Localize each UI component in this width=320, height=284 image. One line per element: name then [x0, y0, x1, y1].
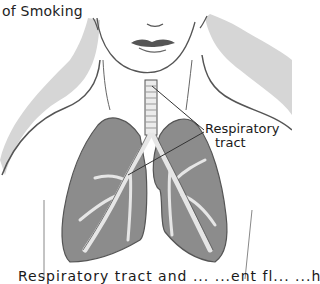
label-line-1: Respiratory [205, 121, 279, 136]
mouth [131, 39, 175, 47]
neck-left [103, 60, 110, 110]
right-shoulder-shade [205, 14, 292, 115]
lower-lip [139, 48, 166, 52]
neck-right [186, 60, 192, 110]
caption-cutoff: Respiratory tract and ... ...ent fl... .… [18, 268, 320, 284]
left-lung [62, 118, 147, 262]
ear-right [200, 16, 207, 28]
label-line-2: tract [205, 136, 279, 150]
respiratory-tract-label: Respiratory tract [205, 122, 279, 150]
nose [147, 24, 163, 26]
